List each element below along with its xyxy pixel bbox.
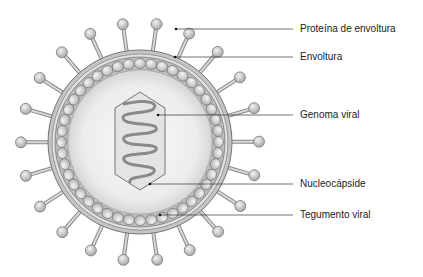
virus-diagram <box>0 0 423 277</box>
label-viral-genome: Genoma viral <box>300 109 359 121</box>
label-nucleocapsid: Nucleocápside <box>300 178 366 190</box>
label-envelope-protein: Proteína de envoltura <box>300 23 396 35</box>
label-envelope: Envoltura <box>300 51 342 63</box>
label-viral-tegument: Tegumento viral <box>300 209 371 221</box>
